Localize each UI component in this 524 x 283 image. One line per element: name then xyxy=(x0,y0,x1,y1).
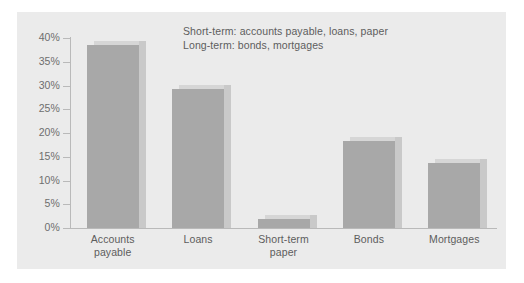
bar xyxy=(172,89,224,228)
x-axis-tick-label: Bonds xyxy=(326,233,411,246)
y-axis-line xyxy=(70,37,71,229)
y-axis-tick-label: 20% xyxy=(14,127,60,138)
plot-area: 40%35%30%25%20%15%10%5%0% Accountspayabl… xyxy=(0,0,524,283)
bar xyxy=(343,141,395,228)
y-axis-tick-label: 30% xyxy=(14,80,60,91)
annotation-line-long-term: Long-term: bonds, mortgages xyxy=(183,39,388,53)
bar-side-face xyxy=(224,85,231,228)
x-axis-tick-label-line: Bonds xyxy=(326,233,411,246)
y-axis-tick xyxy=(63,133,70,134)
y-axis-tick xyxy=(63,204,70,205)
x-axis-tick-label: Mortgages xyxy=(412,233,497,246)
bar-side-face xyxy=(310,215,317,229)
bar xyxy=(258,219,310,229)
chart-figure: 40%35%30%25%20%15%10%5%0% Accountspayabl… xyxy=(0,0,524,283)
y-axis-tick xyxy=(63,157,70,158)
x-axis-tick-label-line: Accounts xyxy=(70,233,155,246)
y-axis-tick xyxy=(63,38,70,39)
x-axis-tick-label-line: Mortgages xyxy=(412,233,497,246)
x-axis-tick-label: Accountspayable xyxy=(70,233,155,258)
x-axis-tick-label-line: Loans xyxy=(155,233,240,246)
y-axis-tick-label: 0% xyxy=(14,222,60,233)
x-axis-line xyxy=(70,228,497,229)
y-axis-tick xyxy=(63,86,70,87)
y-axis-tick xyxy=(63,109,70,110)
bar-side-face xyxy=(395,137,402,228)
y-axis-tick-label: 40% xyxy=(14,32,60,43)
bar-side-face xyxy=(480,159,487,228)
y-axis-tick xyxy=(63,228,70,229)
x-axis-tick-label: Short-termpaper xyxy=(241,233,326,258)
x-axis-tick-label: Loans xyxy=(155,233,240,246)
y-axis-tick-label: 15% xyxy=(14,151,60,162)
x-axis-tick-label-line: Short-term xyxy=(241,233,326,246)
chart-annotation: Short-term: accounts payable, loans, pap… xyxy=(183,25,388,52)
y-axis-tick xyxy=(63,62,70,63)
bar xyxy=(87,45,139,228)
bar-side-face xyxy=(139,41,146,228)
y-axis-tick-label: 25% xyxy=(14,103,60,114)
annotation-line-short-term: Short-term: accounts payable, loans, pap… xyxy=(183,25,388,39)
x-axis-tick-label-line: paper xyxy=(241,246,326,259)
y-axis-tick-label: 10% xyxy=(14,175,60,186)
y-axis-tick-label: 5% xyxy=(14,198,60,209)
bar xyxy=(428,163,480,228)
x-axis-tick-label-line: payable xyxy=(70,246,155,259)
y-axis-tick xyxy=(63,181,70,182)
y-axis-tick-label: 35% xyxy=(14,56,60,67)
